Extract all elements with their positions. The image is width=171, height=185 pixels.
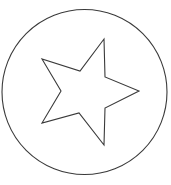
drawing-canvas [0,0,171,185]
star-in-circle-figure [0,0,171,185]
canvas-background [0,0,171,185]
